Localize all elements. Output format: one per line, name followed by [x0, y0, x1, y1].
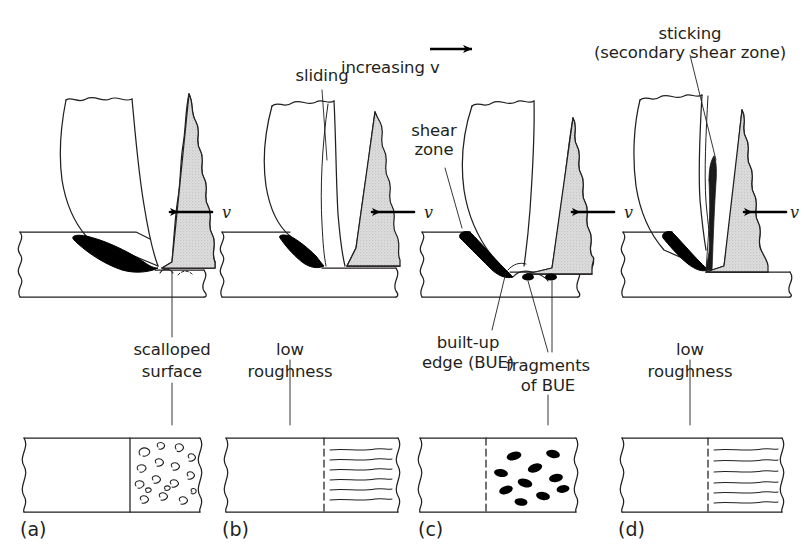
- panel-c-shear-band: [460, 231, 513, 277]
- panel-c-surface-fragment-2: [545, 273, 557, 280]
- velocity-label-c: v: [624, 203, 633, 222]
- panel-b-chip-top-torn: [272, 101, 334, 106]
- strip-a: [22, 438, 202, 512]
- strip-a-right-torn: [198, 438, 202, 512]
- panel-a-tool-body: [162, 94, 215, 268]
- scalloped-surface-label-line2: surface: [142, 362, 202, 381]
- panel-letter-d: (d): [618, 518, 645, 540]
- panel-d-chip-top-torn: [640, 95, 702, 100]
- low-roughness-b-label-line2: roughness: [248, 362, 333, 381]
- panel-d-shear-band: [663, 231, 708, 270]
- panel-c-bue-leader: [492, 272, 506, 330]
- panel-b-chip-right-edge: [334, 101, 345, 266]
- panel-d-sticking-leader: [690, 55, 716, 160]
- increasing-v-text: increasing v: [341, 58, 440, 77]
- strip-b-striations: [330, 449, 392, 500]
- strip-a-scallop-voids: [135, 443, 196, 505]
- velocity-label-d: v: [790, 203, 799, 222]
- panel-d-workpiece-left-torn: [621, 232, 625, 297]
- strip-b-left-torn: [224, 438, 228, 512]
- panel-c-chip-top-torn: [472, 101, 534, 106]
- panel-c-surface-fragment-1: [522, 273, 534, 280]
- shear-zone-label-line1: shear: [411, 121, 457, 140]
- scalloped-surface-label-line1: scalloped: [133, 340, 210, 359]
- panel-letter-c: (c): [418, 518, 443, 540]
- panel-c-chip-right-edge: [524, 101, 534, 266]
- panel-c-tool-body: [527, 118, 594, 274]
- low-roughness-d-label-line2: roughness: [648, 362, 733, 381]
- velocity-label-a: v: [222, 203, 231, 222]
- fragments-label-line1: fragments: [506, 356, 590, 375]
- panel-a-built-up-edge: [73, 235, 158, 272]
- panel-a-chip-top-torn: [66, 97, 132, 100]
- panel-letter-a: (a): [20, 518, 46, 540]
- sticking-label-line1: sticking: [659, 24, 722, 43]
- panel-b-workpiece-left-torn: [220, 232, 224, 297]
- panel-b-shear-band: [280, 235, 324, 268]
- panel-c-workpiece-left-torn: [420, 232, 424, 297]
- panel-a-workpiece-right-torn: [203, 270, 207, 297]
- panel-a-chip-right-edge: [132, 99, 158, 266]
- panel-d-workpiece-right-torn: [789, 272, 792, 297]
- fragments-label-line2: of BUE: [521, 376, 575, 395]
- strip-d: [620, 438, 784, 512]
- strip-c-left-torn: [418, 438, 422, 512]
- panel-a-workpiece-left-torn: [18, 232, 22, 297]
- strip-d-left-torn: [620, 438, 624, 512]
- low-roughness-d-label-line1: low: [676, 340, 704, 359]
- strip-a-left-torn: [22, 438, 26, 512]
- shear-zone-label-line2: zone: [415, 140, 454, 159]
- strip-d-right-torn: [780, 438, 784, 512]
- sticking-label-line2: (secondary shear zone): [594, 43, 786, 62]
- panel-c-shear-zone-leader: [445, 168, 462, 228]
- strip-b-right-torn: [396, 438, 400, 512]
- strip-d-striations: [714, 449, 778, 503]
- panel-b-tool-body: [347, 112, 400, 266]
- panel-c-bue-nose-inner: [508, 263, 526, 270]
- strip-c-bue-fragments: [494, 449, 570, 507]
- strip-c-right-torn: [574, 438, 578, 512]
- velocity-label-b: v: [424, 203, 433, 222]
- panel-b-workpiece-right-torn: [395, 268, 398, 297]
- panel-letter-b: (b): [222, 518, 249, 540]
- machining-regimes-figure: increasing v sliding shear zone sticking…: [0, 0, 805, 554]
- sliding-label: sliding: [295, 66, 348, 85]
- panel-c-fragment-leader-1: [528, 281, 548, 352]
- strip-c: [418, 438, 578, 512]
- built-up-edge-label-line2: edge (BUE): [422, 353, 514, 372]
- built-up-edge-label-line1: built-up: [437, 333, 500, 352]
- low-roughness-b-label-line1: low: [276, 340, 304, 359]
- panel-a-scallop-mark-2: [178, 271, 193, 275]
- strip-b: [224, 438, 400, 512]
